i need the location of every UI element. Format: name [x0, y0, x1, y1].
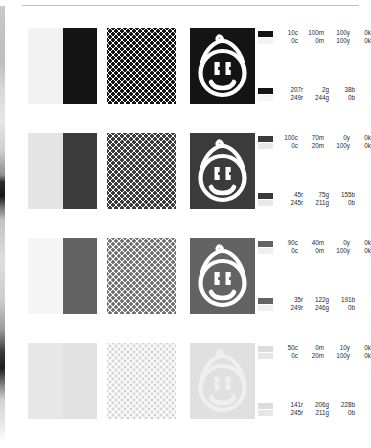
swatch-solid-half — [63, 343, 98, 419]
rgb-chip-secondary — [258, 305, 273, 311]
cmyk-k-value: 0k — [350, 247, 371, 255]
cmyk-value-row: 0c0m100y0k — [277, 37, 371, 45]
rgb-g-value: 246g — [303, 304, 329, 312]
rgb-chip-primary — [258, 403, 273, 409]
rgb-r-value: 35r — [277, 296, 303, 304]
cmyk-k-value: 0k — [350, 142, 371, 150]
cmyk-y-value: 0y — [324, 134, 350, 142]
rgb-r-value: 245r — [277, 409, 303, 417]
logo-panel — [190, 28, 255, 104]
hanger-smiley-logo-icon — [190, 343, 255, 419]
rgb-g-value: 244g — [303, 94, 329, 102]
rgb-chips — [258, 401, 273, 416]
cmyk-k-value: 0k — [350, 29, 371, 37]
rgb-b-value: 0b — [329, 409, 355, 417]
cmyk-k-value: 0k — [350, 344, 371, 352]
rgb-g-value: 211g — [303, 199, 329, 207]
rgb-legend: 45r75g155b245r211g0b — [258, 191, 355, 207]
cmyk-value-row: 90c40m0y0k — [277, 239, 371, 247]
cmyk-chip-secondary — [258, 353, 273, 359]
rgb-legend: 141r206g228b245r211g0b — [258, 401, 355, 417]
solid-swatch-panel — [28, 238, 97, 314]
cmyk-m-value: 70m — [298, 134, 324, 142]
cmyk-m-value: 40m — [298, 239, 324, 247]
swatch-solid-half — [63, 238, 98, 314]
proof-row: 50c0m10y0k0c20m100y0k141r206g228b245r211… — [0, 343, 359, 446]
halftone-pattern-panel — [107, 343, 176, 419]
rgb-b-value: 38b — [329, 86, 355, 94]
rgb-b-value: 191b — [329, 296, 355, 304]
rgb-r-value: 207r — [277, 86, 303, 94]
rgb-chips — [258, 86, 273, 101]
rgb-value-row: 207r2g38b — [277, 86, 355, 94]
cmyk-value-row: 0c20m100y0k — [277, 142, 371, 150]
cmyk-chip-primary — [258, 31, 273, 37]
proof-row: 100c70m0y0k0c20m100y0k45r75g155b245r211g… — [0, 133, 359, 236]
cmyk-values: 50c0m10y0k0c20m100y0k — [277, 344, 371, 360]
rgb-legend: 207r2g38b249r244g0b — [258, 86, 355, 102]
logo-panel — [190, 343, 255, 419]
rgb-values: 141r206g228b245r211g0b — [277, 401, 355, 417]
cmyk-chip-primary — [258, 346, 273, 352]
cmyk-chip-secondary — [258, 143, 273, 149]
rgb-g-value: 2g — [303, 86, 329, 94]
cmyk-k-value: 0k — [350, 239, 371, 247]
cmyk-chip-primary — [258, 241, 273, 247]
rgb-chip-primary — [258, 88, 273, 94]
cmyk-chip-secondary — [258, 248, 273, 254]
cmyk-chips — [258, 344, 273, 359]
cmyk-m-value: 20m — [298, 142, 324, 150]
cmyk-y-value: 100y — [324, 29, 350, 37]
cmyk-legend: 50c0m10y0k0c20m100y0k — [258, 344, 371, 360]
cmyk-value-row: 50c0m10y0k — [277, 344, 371, 352]
halftone-dot-field — [107, 238, 176, 314]
rgb-chips — [258, 191, 273, 206]
cmyk-value-row: 0c20m100y0k — [277, 352, 371, 360]
rgb-b-value: 228b — [329, 401, 355, 409]
cmyk-c-value: 0c — [277, 37, 298, 45]
cmyk-values: 10c100m100y0k0c0m100y0k — [277, 29, 371, 45]
proof-row: 90c40m0y0k0c0m100y0k35r122g191b249r246g0… — [0, 238, 359, 341]
hanger-smiley-logo-icon — [190, 238, 255, 314]
logo-panel — [190, 238, 255, 314]
halftone-pattern-panel — [107, 238, 176, 314]
cmyk-y-value: 100y — [324, 247, 350, 255]
rgb-g-value: 75g — [303, 191, 329, 199]
rgb-value-row: 249r244g0b — [277, 94, 355, 102]
rgb-chip-primary — [258, 193, 273, 199]
halftone-dot-field — [107, 343, 176, 419]
rgb-chips — [258, 296, 273, 311]
cmyk-y-value: 10y — [324, 344, 350, 352]
rgb-legend: 35r122g191b249r246g0b — [258, 296, 355, 312]
rgb-chip-secondary — [258, 95, 273, 101]
proof-row: 10c100m100y0k0c0m100y0k207r2g38b249r244g… — [0, 28, 359, 131]
swatch-solid-half — [63, 133, 98, 209]
cmyk-m-value: 0m — [298, 344, 324, 352]
rgb-value-row: 249r246g0b — [277, 304, 355, 312]
cmyk-chips — [258, 239, 273, 254]
rgb-values: 35r122g191b249r246g0b — [277, 296, 355, 312]
rgb-value-row: 35r122g191b — [277, 296, 355, 304]
solid-swatch-panel — [28, 28, 97, 104]
cmyk-chip-primary — [258, 136, 273, 142]
cmyk-values: 90c40m0y0k0c0m100y0k — [277, 239, 371, 255]
rgb-r-value: 249r — [277, 304, 303, 312]
cmyk-value-row: 0c0m100y0k — [277, 247, 371, 255]
swatch-tint-half — [28, 238, 63, 314]
halftone-pattern-panel — [107, 28, 176, 104]
cmyk-k-value: 0k — [350, 37, 371, 45]
swatch-solid-half — [63, 28, 98, 104]
rgb-r-value: 249r — [277, 94, 303, 102]
rgb-chip-secondary — [258, 410, 273, 416]
cmyk-value-row: 100c70m0y0k — [277, 134, 371, 142]
swatch-tint-half — [28, 133, 63, 209]
halftone-dot-field — [107, 28, 176, 104]
rgb-values: 45r75g155b245r211g0b — [277, 191, 355, 207]
cmyk-m-value: 100m — [298, 29, 324, 37]
cmyk-chips — [258, 134, 273, 149]
rgb-value-row: 245r211g0b — [277, 409, 355, 417]
rgb-r-value: 45r — [277, 191, 303, 199]
cmyk-c-value: 50c — [277, 344, 298, 352]
solid-swatch-panel — [28, 133, 97, 209]
